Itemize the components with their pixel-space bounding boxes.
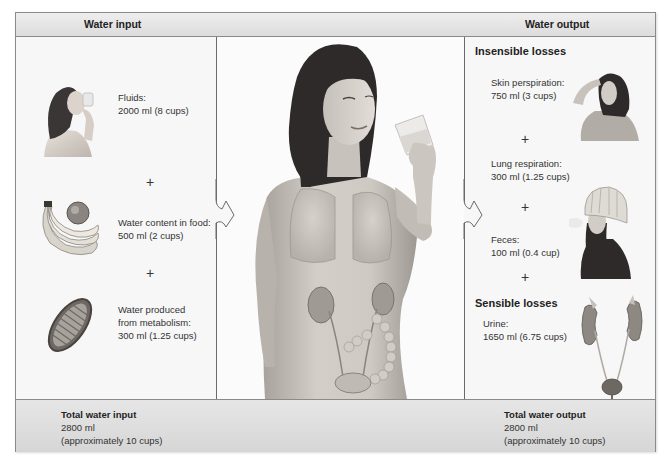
water-output-title: Water output (525, 18, 589, 30)
feces-label: Feces: (491, 234, 520, 247)
sensible-losses-title: Sensible losses (475, 297, 558, 309)
total-output-value: 2800 ml (504, 421, 605, 434)
bananas-apple-icon (36, 199, 106, 257)
lung-respiration-label: Lung respiration: (491, 158, 562, 171)
header-bar: Water input Water output (16, 13, 655, 37)
fluids-label: Fluids: (118, 92, 146, 105)
metabolism-label-line1: Water produced (118, 304, 185, 317)
mitochondrion-icon (40, 293, 100, 357)
urine-value: 1650 ml (6.75 cups) (483, 331, 567, 344)
totals-footer: Total water input 2800 ml (approximately… (16, 399, 655, 452)
arrow-right-icon (208, 179, 238, 239)
food-label: Water content in food: (118, 217, 211, 230)
fluids-value: 2000 ml (8 cups) (118, 105, 189, 118)
person-breathing-cold-icon (569, 183, 639, 279)
total-input-title: Total water input (61, 408, 162, 421)
skin-perspiration-label: Skin perspiration: (491, 77, 564, 90)
center-illustration-panel (217, 37, 464, 399)
plus-sign: + (521, 199, 529, 215)
plus-sign: + (521, 131, 529, 147)
water-output-column: Insensible losses Skin perspiration: 750… (465, 37, 655, 399)
total-input-value: 2800 ml (61, 421, 162, 434)
plus-sign: + (521, 269, 529, 285)
total-output-note: (approximately 10 cups) (504, 434, 605, 447)
plus-sign: + (146, 174, 154, 190)
feces-value: 100 ml (0.4 cup) (491, 247, 560, 260)
urine-label: Urine: (483, 318, 508, 331)
metabolism-label-line2: from metabolism: (118, 317, 191, 330)
person-sweating-icon (569, 69, 647, 141)
metabolism-value: 300 ml (1.25 cups) (118, 330, 197, 343)
woman-drinking-illustration (217, 37, 464, 399)
person-drinking-icon (36, 79, 116, 159)
total-output-title: Total water output (504, 408, 605, 421)
plus-sign: + (146, 265, 154, 281)
insensible-losses-title: Insensible losses (475, 45, 566, 57)
water-input-column: Fluids: 2000 ml (8 cups) + Water content… (16, 37, 216, 399)
total-water-output: Total water output 2800 ml (approximatel… (504, 408, 605, 447)
skin-perspiration-value: 750 ml (3 cups) (491, 90, 556, 103)
water-input-title: Water input (84, 18, 141, 30)
water-balance-diagram: Water input Water output Fluids: 2000 ml… (15, 12, 656, 452)
total-input-note: (approximately 10 cups) (61, 434, 162, 447)
food-value: 500 ml (2 cups) (118, 230, 183, 243)
kidneys-bladder-icon (577, 291, 647, 399)
lung-respiration-value: 300 ml (1.25 cups) (491, 171, 570, 184)
total-water-input: Total water input 2800 ml (approximately… (61, 408, 162, 447)
